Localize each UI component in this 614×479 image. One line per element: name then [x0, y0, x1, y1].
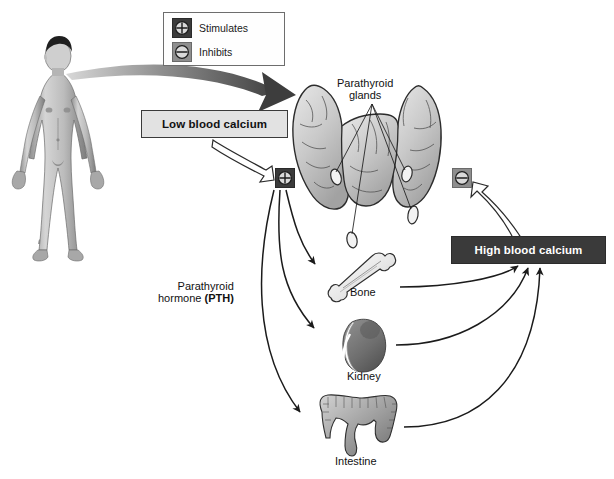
- high-blood-calcium-label: High blood calcium: [475, 244, 583, 256]
- high-blood-calcium-box: High blood calcium: [451, 236, 606, 264]
- arrow-bone-to-high-calcium: [400, 266, 518, 287]
- intestine-label: Intestine: [335, 455, 377, 467]
- parathyroid-glands-label: Parathyroid glands: [337, 77, 393, 102]
- parathyroid-glands-label-line1: Parathyroid: [337, 77, 393, 89]
- arrow-high-calcium-to-inhibit: [471, 182, 520, 238]
- legend-label-stimulates: Stimulates: [199, 22, 248, 34]
- arrow-low-calcium-to-stimulate: [212, 140, 274, 182]
- arrow-intestine-to-high-calcium: [404, 268, 540, 427]
- plus-circle-icon: [172, 18, 192, 38]
- diagram-canvas: Stimulates Inhibits Low blood calcium Hi…: [0, 0, 614, 479]
- thick-gray-arrow: [66, 64, 296, 112]
- pth-label-line1: Parathyroid: [158, 280, 234, 292]
- inhibit-marker-minus-circle-icon: [452, 168, 472, 188]
- arrow-pth-to-kidney: [279, 190, 314, 328]
- parathyroid-gland-lower-right: [407, 205, 420, 224]
- arrow-pth-to-bone: [286, 190, 315, 264]
- parathyroid-hormone-label: Parathyroid hormone (PTH): [158, 280, 234, 305]
- minus-circle-icon: [172, 42, 192, 62]
- pth-label-line2: hormone (PTH): [158, 292, 234, 304]
- legend-label-inhibits: Inhibits: [199, 46, 232, 58]
- pth-label-abbreviation: (PTH): [204, 292, 233, 304]
- kidney-illustration: [343, 319, 386, 372]
- low-blood-calcium-box: Low blood calcium: [141, 110, 288, 138]
- low-blood-calcium-label: Low blood calcium: [162, 118, 267, 130]
- thyroid-gland-illustration: [293, 85, 441, 248]
- kidney-label: Kidney: [347, 370, 381, 382]
- bone-label: Bone: [350, 286, 376, 298]
- legend-item-inhibits: Inhibits: [172, 40, 232, 64]
- stimulate-marker-plus-circle-icon: [275, 168, 295, 188]
- parathyroid-glands-label-line2: glands: [337, 89, 393, 101]
- legend-item-stimulates: Stimulates: [172, 16, 248, 40]
- arrow-kidney-to-high-calcium: [396, 268, 528, 345]
- pth-label-hormone-word: hormone: [158, 292, 204, 304]
